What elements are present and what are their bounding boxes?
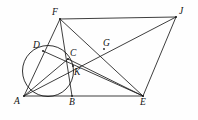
vertex-point-F <box>59 18 61 20</box>
segment-AF <box>24 19 60 96</box>
geometry-figure: FJDCGKABE <box>0 0 198 120</box>
segment-AC <box>24 59 68 96</box>
vertex-label-A: A <box>14 97 20 107</box>
vertex-label-C: C <box>70 49 76 59</box>
vertex-label-F: F <box>52 8 58 18</box>
segment-FJ <box>60 17 176 19</box>
vertex-point-C <box>67 58 69 60</box>
vertex-label-B: B <box>69 98 75 108</box>
vertex-label-D: D <box>33 41 40 51</box>
segment-AJ <box>24 17 176 96</box>
vertex-point-J <box>175 16 177 18</box>
vertex-point-D <box>42 50 44 52</box>
vertex-label-E: E <box>140 98 146 108</box>
segment-DE <box>43 51 143 96</box>
vertex-label-J: J <box>179 7 183 17</box>
segment-CE <box>68 59 143 96</box>
vertex-point-A <box>23 95 25 97</box>
vertex-label-G: G <box>103 39 110 49</box>
segment-JE <box>143 17 176 96</box>
segments-group <box>24 17 176 96</box>
geometry-canvas <box>0 0 198 120</box>
vertex-label-K: K <box>74 68 80 78</box>
